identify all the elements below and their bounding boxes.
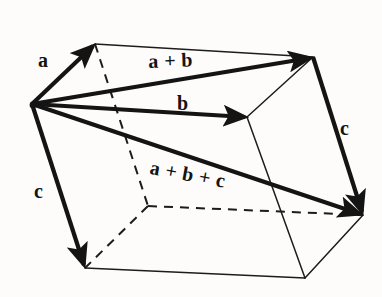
label-vector-a: a bbox=[38, 50, 48, 70]
label-vector-c-left: c bbox=[34, 181, 43, 201]
dashed-edge-hidden-to-right bbox=[148, 206, 363, 215]
vector-a-b-c bbox=[32, 104, 360, 214]
vector-diagram-figure: a a + b b a + b + c c c bbox=[0, 0, 382, 297]
dashed-edge-top-to-hidden bbox=[95, 44, 148, 206]
label-vector-c-right: c bbox=[340, 118, 349, 138]
origin-vertex-dot bbox=[30, 102, 37, 109]
label-vector-a-plus-b: a + b bbox=[148, 49, 193, 71]
vector-c-right bbox=[313, 57, 362, 212]
edge-bottom-right bbox=[305, 215, 363, 278]
dashed-edge-hidden-to-bottom bbox=[85, 206, 148, 268]
edge-top-back bbox=[95, 44, 313, 57]
diagram-canvas bbox=[0, 0, 382, 297]
vector-arrows bbox=[32, 46, 362, 265]
edge-bottom-front bbox=[85, 268, 305, 278]
edge-front-vertical bbox=[247, 117, 305, 278]
label-vector-b: b bbox=[177, 93, 189, 113]
